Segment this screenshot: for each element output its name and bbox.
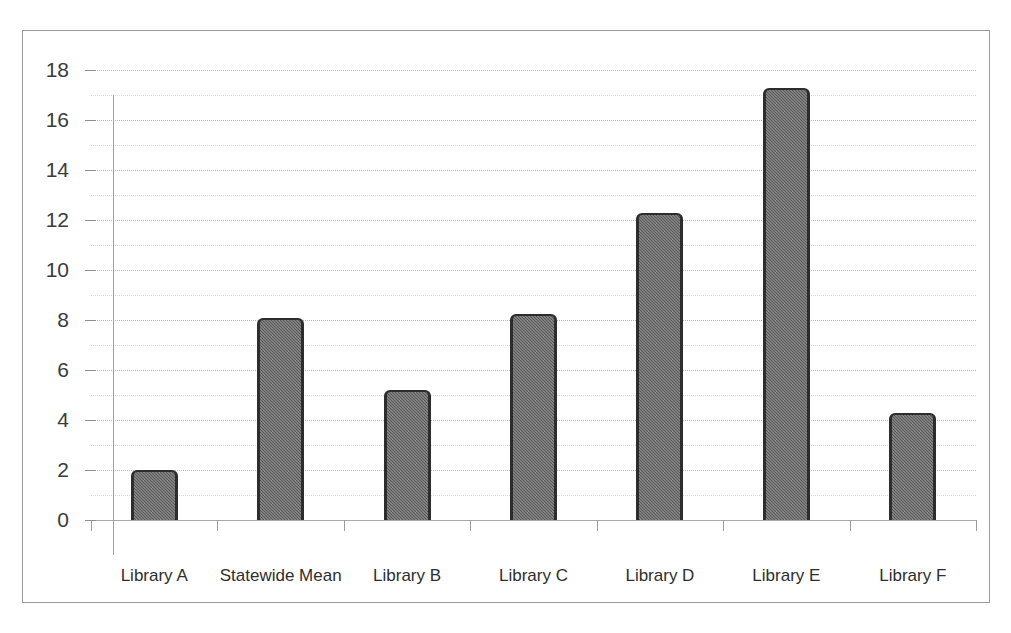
- y-axis-tick: [85, 70, 96, 71]
- y-axis-tick: [85, 270, 96, 271]
- y-axis-tick: [85, 420, 96, 421]
- y-axis-tick-label: 6: [29, 359, 69, 380]
- bar: [384, 390, 431, 520]
- y-axis-tick-label: 12: [29, 209, 69, 230]
- gridline-minor: [91, 295, 976, 296]
- y-axis-tick-label: 10: [29, 259, 69, 280]
- x-axis-category-label: Statewide Mean: [211, 565, 351, 588]
- y-axis-tick-label: 0: [29, 509, 69, 530]
- y-axis-tick: [85, 170, 96, 171]
- gridline-minor: [91, 245, 976, 246]
- x-axis-tick: [91, 520, 92, 531]
- x-axis-tick: [850, 520, 851, 531]
- y-axis-tick: [85, 120, 96, 121]
- x-axis-category-label: Library F: [843, 565, 983, 588]
- axis-baseline: [91, 520, 976, 521]
- y-axis-tick-label: 18: [29, 59, 69, 80]
- x-axis-category-label: Library B: [337, 565, 477, 588]
- x-axis-tick: [217, 520, 218, 531]
- y-axis-tick: [85, 370, 96, 371]
- y-axis-tick-label: 2: [29, 459, 69, 480]
- y-axis-line: [113, 95, 114, 555]
- x-axis-tick: [723, 520, 724, 531]
- gridline-major: [91, 70, 976, 71]
- bar: [510, 314, 557, 520]
- gridline-major: [91, 270, 976, 271]
- bar: [889, 413, 936, 521]
- x-axis-tick: [597, 520, 598, 531]
- gridline-minor: [91, 195, 976, 196]
- y-axis-tick: [85, 470, 96, 471]
- gridline-major: [91, 170, 976, 171]
- bar: [257, 318, 304, 521]
- bar: [763, 88, 810, 521]
- x-axis-tick: [344, 520, 345, 531]
- x-axis-tick: [470, 520, 471, 531]
- x-axis-category-label: Library C: [464, 565, 604, 588]
- bar: [636, 213, 683, 521]
- x-axis-category-label: Library A: [84, 565, 224, 588]
- bar: [131, 470, 178, 520]
- chart-screenshot: 024681012141618 Library AStatewide MeanL…: [0, 0, 1011, 633]
- y-axis-tick: [85, 220, 96, 221]
- gridline-minor: [91, 95, 976, 96]
- y-axis-tick-label: 14: [29, 159, 69, 180]
- y-axis-tick-label: 8: [29, 309, 69, 330]
- x-axis-tick: [976, 520, 977, 531]
- y-axis-tick-label: 16: [29, 109, 69, 130]
- gridline-major: [91, 220, 976, 221]
- gridline-minor: [91, 145, 976, 146]
- x-axis-category-label: Library E: [716, 565, 856, 588]
- gridline-major: [91, 120, 976, 121]
- y-axis-tick: [85, 320, 96, 321]
- y-axis-tick-label: 4: [29, 409, 69, 430]
- x-axis-category-label: Library D: [590, 565, 730, 588]
- chart-frame: 024681012141618 Library AStatewide MeanL…: [22, 30, 990, 603]
